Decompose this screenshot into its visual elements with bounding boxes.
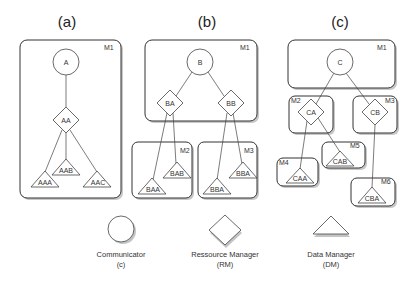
panel-b: (b) M1 M2 M3 B BA BB BAA BAB BBA BBA <box>132 13 259 200</box>
legend-resource-manager-icon <box>209 215 241 245</box>
node-label: BBA <box>236 170 250 177</box>
panel-a-label: (a) <box>58 13 76 30</box>
machine-label: M2 <box>180 147 190 154</box>
node-label: BB <box>226 100 236 107</box>
legend-data-manager-icon <box>313 216 349 234</box>
panel-c-label: (c) <box>331 13 349 30</box>
legend-abbr: (c) <box>117 260 126 269</box>
diagram-canvas: (a) M1 A AA AAA AAB AAC (b) M1 M2 M3 <box>0 0 416 283</box>
node-label: BA <box>165 100 175 107</box>
machine-label: M4 <box>279 159 289 166</box>
node-label: C <box>337 59 342 66</box>
node-label: AAB <box>59 167 73 174</box>
legend-abbr: (RM) <box>217 260 234 269</box>
panel-b-label: (b) <box>198 13 216 30</box>
node-label: CA <box>306 109 316 116</box>
node-label: BBA <box>210 186 224 193</box>
legend-label: Data Manager <box>307 250 355 259</box>
machine-label: M1 <box>377 44 387 51</box>
node-label: AA <box>61 117 71 124</box>
panel-c: (c) M1 M2 M3 M4 M5 M6 C CA CB CAA <box>277 13 399 208</box>
node-label: BAB <box>170 170 184 177</box>
machine-label: M2 <box>291 97 301 104</box>
legend: Communicator (c) Ressource Manager (RM) … <box>97 215 356 269</box>
node-label: CAB <box>333 158 348 165</box>
machine-label: M5 <box>350 142 360 149</box>
machine-label: M3 <box>385 97 395 104</box>
panel-a: (a) M1 A AA AAA AAB AAC <box>20 13 123 200</box>
node-label: AAC <box>91 179 105 186</box>
machine-label: M1 <box>104 44 114 51</box>
machine-label: M3 <box>244 147 254 154</box>
legend-communicator-icon <box>108 216 134 242</box>
legend-label: Communicator <box>97 250 146 259</box>
node-label: A <box>64 59 69 66</box>
node-label: AAA <box>38 179 52 186</box>
legend-label: Ressource Manager <box>191 250 259 259</box>
node-label: CB <box>370 109 380 116</box>
node-label: CBA <box>365 195 380 202</box>
machine-label: M1 <box>240 44 250 51</box>
machine-label: M6 <box>381 178 391 185</box>
node-label: BAA <box>146 186 160 193</box>
legend-abbr: (DM) <box>323 260 340 269</box>
node-label: CAA <box>293 175 308 182</box>
node-label: B <box>198 59 203 66</box>
